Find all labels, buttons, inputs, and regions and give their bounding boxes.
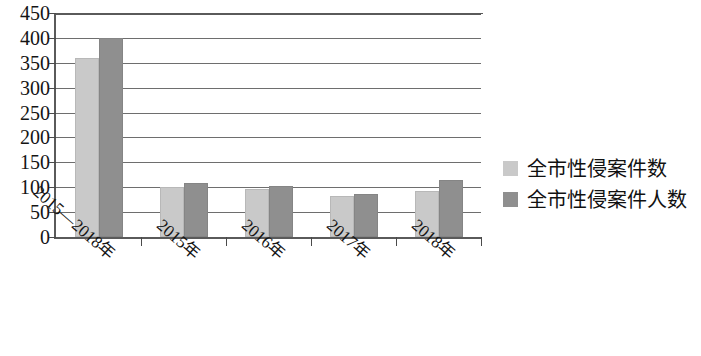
y-axis-tick-mark [49, 113, 56, 114]
bar-group [75, 13, 123, 237]
y-axis-tick-label: 300 [4, 78, 50, 98]
y-axis-tick-label: 250 [4, 103, 50, 123]
y-axis-tick-label: 350 [4, 53, 50, 73]
bar-group [160, 13, 208, 237]
plot-area [54, 13, 481, 239]
y-axis-tick-mark [49, 63, 56, 64]
bar-group [245, 13, 293, 237]
bar-chart: 450400350300250200150100500 2015—2018年20… [0, 0, 701, 356]
x-axis: 2015—2018年2015年2016年2017年2018年 [0, 237, 701, 356]
plot-frame-right-cap [481, 13, 483, 14]
legend-swatch-light-icon [503, 161, 518, 176]
bar[interactable] [75, 58, 99, 237]
y-axis: 450400350300250200150100500 [0, 0, 50, 250]
y-axis-tick-mark [49, 137, 56, 138]
y-axis-tick-label: 150 [4, 152, 50, 172]
bar[interactable] [184, 183, 208, 237]
legend-item-label: 全市性侵案件人数 [527, 189, 687, 211]
bar[interactable] [269, 186, 293, 237]
legend-swatch-dark-icon [503, 192, 518, 207]
y-axis-tick-label: 400 [4, 28, 50, 48]
legend-item: 全市性侵案件人数 [503, 184, 698, 215]
bar-group [415, 13, 463, 237]
y-axis-tick-mark [49, 162, 56, 163]
y-axis-tick-label: 450 [4, 3, 50, 23]
legend-item: 全市性侵案件数 [503, 153, 698, 184]
y-axis-tick-label: 200 [4, 127, 50, 147]
y-axis-tick-mark [49, 13, 56, 14]
bar[interactable] [99, 38, 123, 237]
y-axis-tick-mark [49, 38, 56, 39]
bar[interactable] [354, 194, 378, 237]
bar[interactable] [439, 180, 463, 237]
chart-legend: 全市性侵案件数 全市性侵案件人数 [503, 153, 698, 215]
legend-item-label: 全市性侵案件数 [527, 158, 667, 180]
y-axis-tick-mark [49, 88, 56, 89]
bar-group [330, 13, 378, 237]
